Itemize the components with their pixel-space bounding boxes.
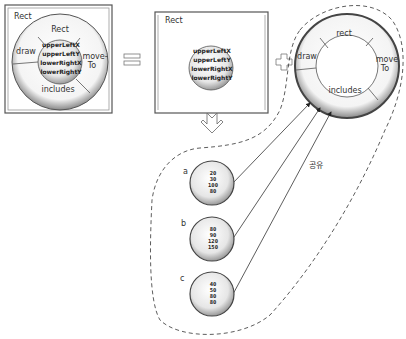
instance-a: a 20 30 100 80 [183,161,234,205]
share-arrow-a [232,103,310,184]
left-rect-box: Rect Rect draw move- To includes upperLe… [5,5,112,113]
left-ring: Rect draw move- To includes upperLeftX u… [12,14,108,110]
middle-core-field: upperLeftX [193,47,231,55]
instance-b: b 80 90 120 150 [181,217,234,261]
middle-core-field: upperLeftY [193,56,231,64]
left-box-title: Rect [14,12,32,21]
left-ring-right-label-2: To [87,61,97,70]
share-arrow-c [232,112,331,296]
left-ring-top-label: Rect [51,25,69,34]
left-ring-left-label: draw [16,47,36,56]
down-arrow-icon [201,113,223,133]
plus-icon [276,54,292,70]
left-core-field: lowerRightX [40,59,82,67]
shared-ring-right-label-1: move [376,55,398,64]
left-ring-bottom-label: includes [41,85,74,94]
instance-label: a [183,167,188,176]
instance-value: 150 [208,244,218,250]
instance-value: 80 [210,299,217,305]
left-core-field: lowerRightY [40,68,82,76]
instance-label: b [181,219,186,228]
left-core-field: upperLeftY [42,50,80,58]
middle-box-title: Rect [165,16,183,25]
diagram-canvas: Rect Rect draw move- To includes upperLe… [0,0,406,339]
instance-label: c [180,274,184,283]
middle-rect-box: Rect upperLeftX upperLeftY lowerRightX l… [155,12,268,113]
shared-method-ring: rect draw move To includes [295,14,399,118]
share-arrow-b [232,108,320,240]
shared-ring-top-label: rect [336,29,352,38]
shared-ring-left-label: draw [297,52,317,61]
middle-core-field: lowerRightX [191,65,233,73]
shared-ring-bottom-label: includes [328,86,361,95]
shared-ring-right-label-2: To [380,64,390,73]
instance-value: 80 [210,188,217,194]
instance-c: c 40 50 80 80 [180,272,234,316]
share-label: 공유 [309,161,323,170]
left-ring-right-label-1: move- [82,52,107,61]
middle-core-field: lowerRightY [191,74,233,82]
equals-icon [124,54,140,65]
left-core-field: upperLeftX [42,41,80,49]
